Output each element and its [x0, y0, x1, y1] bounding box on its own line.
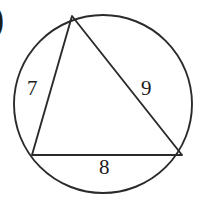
inscribed-triangle [32, 16, 182, 155]
side-length-label-right: 9 [141, 78, 152, 99]
cropped-corner-glyph: ) [0, 2, 13, 36]
side-length-label-bottom: 8 [99, 157, 110, 178]
side-length-label-left: 7 [27, 78, 38, 99]
inscribed-triangle-figure: ) 7 9 8 [0, 0, 202, 198]
